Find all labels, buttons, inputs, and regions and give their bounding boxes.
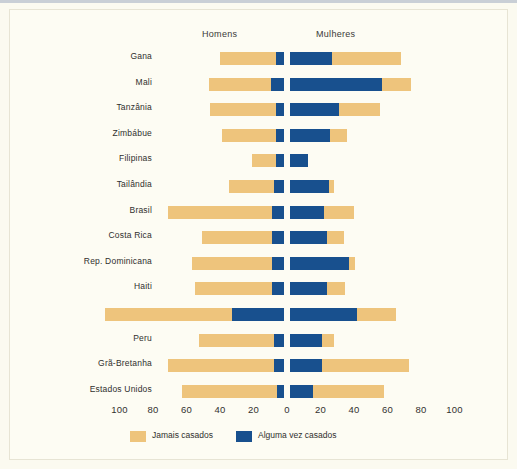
bar-row: Peru <box>0 328 517 352</box>
bar-segment-homens-jamais-casados <box>168 359 274 372</box>
bar-segment-homens-jamais-casados <box>252 154 275 167</box>
bar-row: Haiti <box>0 276 517 300</box>
bar-segment-mulheres-alguma-vez-casados <box>290 129 330 142</box>
bar-group <box>0 46 517 70</box>
bar-row: Estados Unidos <box>0 379 517 403</box>
bar-segment-mulheres-jamais-casados <box>357 308 396 321</box>
bar-segment-homens-alguma-vez-casados <box>276 129 284 142</box>
bar-segment-mulheres-alguma-vez-casados <box>290 78 382 91</box>
bar-segment-mulheres-jamais-casados <box>322 334 334 347</box>
bar-group <box>0 251 517 275</box>
bar-segment-homens-alguma-vez-casados <box>274 359 284 372</box>
x-axis-tick: 40 <box>339 404 369 415</box>
bar-segment-mulheres-jamais-casados <box>330 129 347 142</box>
bar-row: Gana <box>0 46 517 70</box>
legend-label-alguma-vez-casados: Alguma vez casados <box>258 430 336 440</box>
legend-swatch-jamais-casados <box>130 431 146 442</box>
bar-row: Grã-Bretanha <box>0 353 517 377</box>
x-axis-tick: 20 <box>306 404 336 415</box>
bar-segment-mulheres-alguma-vez-casados <box>290 231 327 244</box>
bar-row: Zimbábue <box>0 123 517 147</box>
bar-segment-mulheres-jamais-casados <box>322 359 409 372</box>
bar-segment-homens-jamais-casados <box>168 206 272 219</box>
x-axis-tick: 40 <box>205 404 235 415</box>
bar-row: Brasil <box>0 200 517 224</box>
bar-segment-homens-alguma-vez-casados <box>276 103 284 116</box>
bar-segment-homens-alguma-vez-casados <box>272 257 284 270</box>
x-axis-tick: 80 <box>406 404 436 415</box>
bar-segment-mulheres-jamais-casados <box>339 103 381 116</box>
bar-row: Costa Rica <box>0 225 517 249</box>
bar-segment-homens-alguma-vez-casados <box>271 78 284 91</box>
bar-group <box>0 276 517 300</box>
bar-group <box>0 379 517 403</box>
bar-row: Tailândia <box>0 174 517 198</box>
bar-segment-mulheres-alguma-vez-casados <box>290 206 324 219</box>
bar-segment-homens-jamais-casados <box>202 231 272 244</box>
panel-label-homens: Homens <box>202 29 237 39</box>
bar-segment-mulheres-jamais-casados <box>332 52 401 65</box>
bar-group <box>0 174 517 198</box>
bar-segment-homens-alguma-vez-casados <box>276 154 284 167</box>
bar-segment-homens-alguma-vez-casados <box>272 231 284 244</box>
bar-segment-mulheres-alguma-vez-casados <box>290 282 327 295</box>
bar-segment-mulheres-jamais-casados <box>349 257 356 270</box>
bar-group <box>0 123 517 147</box>
x-axis-tick: 20 <box>239 404 269 415</box>
bar-group <box>0 200 517 224</box>
chart-legend: Jamais casados Alguma vez casados <box>0 428 517 446</box>
panel-label-mulheres: Mulheres <box>316 29 355 39</box>
bar-segment-mulheres-alguma-vez-casados <box>290 385 313 398</box>
bar-segment-homens-jamais-casados <box>105 308 232 321</box>
bar-segment-mulheres-alguma-vez-casados <box>290 334 322 347</box>
bar-group <box>0 353 517 377</box>
bar-row: Mali <box>0 72 517 96</box>
bar-segment-homens-jamais-casados <box>182 385 277 398</box>
bar-segment-mulheres-alguma-vez-casados <box>290 52 332 65</box>
x-axis-tick: 100 <box>105 404 135 415</box>
bar-segment-mulheres-jamais-casados <box>313 385 383 398</box>
bar-group <box>0 72 517 96</box>
bar-segment-homens-alguma-vez-casados <box>272 282 284 295</box>
bar-group <box>0 302 517 326</box>
bar-segment-mulheres-alguma-vez-casados <box>290 154 308 167</box>
chart-plot-area: Homens Mulheres GanaMaliTanzâniaZimbábue… <box>0 0 517 469</box>
x-axis-tick: 60 <box>373 404 403 415</box>
bar-segment-homens-jamais-casados <box>199 334 274 347</box>
bar-segment-homens-alguma-vez-casados <box>277 385 284 398</box>
bar-segment-mulheres-jamais-casados <box>324 206 354 219</box>
bar-row: Filipinas <box>0 148 517 172</box>
x-axis: 10080604020020406080100 <box>0 404 517 420</box>
bar-segment-mulheres-alguma-vez-casados <box>290 308 357 321</box>
bar-group <box>0 148 517 172</box>
legend-label-jamais-casados: Jamais casados <box>152 430 213 440</box>
bar-segment-mulheres-jamais-casados <box>327 231 344 244</box>
x-axis-tick: 60 <box>172 404 202 415</box>
bar-segment-mulheres-alguma-vez-casados <box>290 180 329 193</box>
bar-segment-mulheres-alguma-vez-casados <box>290 103 339 116</box>
bar-segment-homens-jamais-casados <box>210 103 275 116</box>
bar-segment-mulheres-alguma-vez-casados <box>290 257 349 270</box>
bar-group <box>0 97 517 121</box>
bar-segment-homens-jamais-casados <box>220 52 275 65</box>
bar-group <box>0 225 517 249</box>
bar-segment-homens-alguma-vez-casados <box>232 308 284 321</box>
bar-segment-mulheres-jamais-casados <box>382 78 410 91</box>
legend-swatch-alguma-vez-casados <box>236 431 252 442</box>
bar-segment-homens-alguma-vez-casados <box>274 180 284 193</box>
bar-row: Jamaica <box>0 302 517 326</box>
bar-segment-homens-jamais-casados <box>195 282 272 295</box>
bar-segment-homens-jamais-casados <box>229 180 274 193</box>
bar-segment-homens-jamais-casados <box>209 78 271 91</box>
x-axis-tick: 100 <box>440 404 470 415</box>
bar-segment-mulheres-jamais-casados <box>329 180 334 193</box>
bar-segment-mulheres-jamais-casados <box>327 282 345 295</box>
bar-group <box>0 328 517 352</box>
bar-segment-mulheres-alguma-vez-casados <box>290 359 322 372</box>
x-axis-tick: 0 <box>272 404 302 415</box>
x-axis-tick: 80 <box>138 404 168 415</box>
bar-segment-homens-jamais-casados <box>192 257 272 270</box>
bar-segment-homens-jamais-casados <box>222 129 276 142</box>
bar-segment-homens-alguma-vez-casados <box>272 206 284 219</box>
chart-frame: Homens Mulheres GanaMaliTanzâniaZimbábue… <box>0 0 517 469</box>
